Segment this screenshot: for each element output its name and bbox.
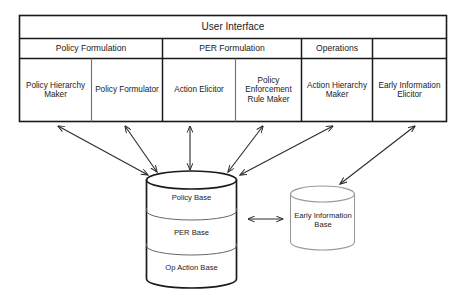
band-label-policy-base: Policy Base [149,188,234,208]
band-label-per-base: PER Base [149,223,234,243]
arrow-action-hierarchy-maker [240,126,333,175]
arrow-policy-hierarchy-maker [58,126,148,175]
diagram-canvas: User Interface Policy Formulation PER Fo… [0,0,465,304]
arrow-early-information-elicitor [340,126,415,184]
band-label-op-action-base: Op Action Base [149,258,234,278]
user-interface-table [20,16,447,122]
cylinder-label-early-information-base: Early Information Base [293,202,353,238]
connector-arrows [58,126,415,184]
